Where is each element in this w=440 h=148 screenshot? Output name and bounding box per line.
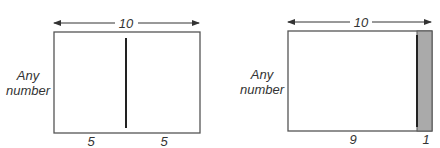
width-label: 10	[354, 15, 369, 30]
height-label-line2: number	[240, 82, 285, 97]
diagram-equal-split: 10 Any number 5 5	[6, 16, 200, 148]
diagram-nine-one-split: 10 Any number 9 1	[240, 15, 432, 147]
bottom-label-left: 9	[349, 132, 356, 147]
bottom-label-right: 1	[422, 132, 429, 147]
height-label-line1: Any	[250, 67, 275, 82]
shaded-strip	[417, 31, 432, 131]
height-label-line1: Any	[16, 68, 41, 83]
rectangle	[288, 31, 432, 131]
height-label-line2: number	[6, 83, 51, 98]
bottom-label-right: 5	[160, 134, 168, 148]
width-label: 10	[119, 16, 134, 31]
bottom-label-left: 5	[87, 134, 95, 148]
diagram-canvas: 10 Any number 5 5 10 Any number 9 1	[0, 0, 440, 148]
